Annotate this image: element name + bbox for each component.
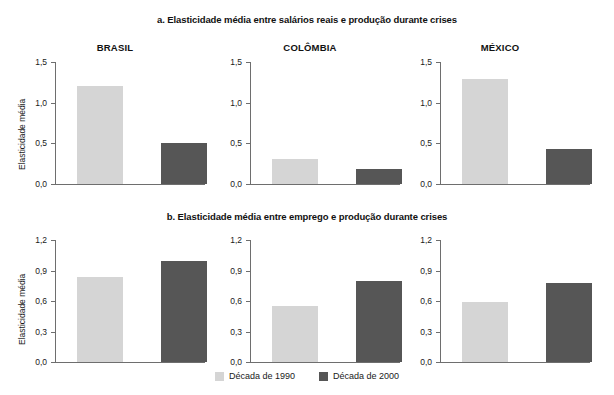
y-axis-line xyxy=(440,62,441,184)
panel-title-brasil: BRASIL xyxy=(35,42,195,53)
bar-decada1990 xyxy=(77,86,123,184)
y-axis-tick xyxy=(51,62,55,63)
y-axis-tick-label: 1,0 xyxy=(420,98,432,108)
x-axis-line xyxy=(440,362,590,363)
y-axis-tick-label: 0,0 xyxy=(420,179,432,189)
y-axis-tick-label: 0,9 xyxy=(420,266,432,276)
y-axis-tick-label: 0,0 xyxy=(35,179,47,189)
y-axis-tick-label: 0,5 xyxy=(230,138,242,148)
y-axis-tick xyxy=(436,143,440,144)
y-axis-line xyxy=(440,240,441,362)
y-axis-tick xyxy=(246,240,250,241)
y-axis-tick-label: 0,0 xyxy=(35,357,47,367)
y-axis-tick xyxy=(51,301,55,302)
y-axis-tick-label: 1,5 xyxy=(420,57,432,67)
y-axis-tick-label: 1,5 xyxy=(35,57,47,67)
legend-label-decada2000: Década de 2000 xyxy=(333,371,399,381)
chart-panel-a-brasil: 0,00,51,01,5 xyxy=(55,62,205,184)
y-axis-tick xyxy=(436,301,440,302)
x-axis-line xyxy=(250,362,400,363)
y-axis-tick xyxy=(436,240,440,241)
y-axis-tick-label: 1,2 xyxy=(230,235,242,245)
y-axis-tick-label: 1,0 xyxy=(230,98,242,108)
y-axis-tick-label: 0,0 xyxy=(230,357,242,367)
bar-decada2000 xyxy=(546,283,592,362)
panel-title-mexico: MÉXICO xyxy=(420,42,580,53)
chart-panel-b-colombia: 0,00,30,60,91,2 xyxy=(250,240,400,362)
y-axis-tick xyxy=(51,143,55,144)
y-axis-tick-label: 1,5 xyxy=(230,57,242,67)
y-axis-tick-label: 0,9 xyxy=(35,266,47,276)
chart-panel-a-mexico: 0,00,51,01,5 xyxy=(440,62,590,184)
y-axis-label-b: Elasticidade média xyxy=(17,274,27,345)
y-axis-tick xyxy=(246,362,250,363)
y-axis-line xyxy=(250,62,251,184)
y-axis-tick xyxy=(246,332,250,333)
x-axis-line xyxy=(250,184,400,185)
y-axis-tick xyxy=(51,240,55,241)
y-axis-tick xyxy=(246,271,250,272)
legend-swatch-icon-decada1990 xyxy=(215,372,224,381)
y-axis-tick-label: 1,2 xyxy=(35,235,47,245)
bar-decada1990 xyxy=(462,302,508,362)
bar-decada2000 xyxy=(356,281,402,362)
y-axis-tick-label: 0,3 xyxy=(420,327,432,337)
section-title-a: a. Elasticidade média entre salários rea… xyxy=(0,14,614,25)
chart-panel-a-colombia: 0,00,51,01,5 xyxy=(250,62,400,184)
y-axis-line xyxy=(55,62,56,184)
y-axis-tick-label: 0,3 xyxy=(35,327,47,337)
y-axis-tick xyxy=(51,362,55,363)
legend: Década de 1990 Década de 2000 xyxy=(0,371,614,381)
x-axis-line xyxy=(440,184,590,185)
y-axis-tick-label: 0,6 xyxy=(35,296,47,306)
y-axis-tick-label: 0,3 xyxy=(230,327,242,337)
y-axis-tick xyxy=(436,62,440,63)
y-axis-tick xyxy=(51,332,55,333)
bar-decada2000 xyxy=(161,261,207,362)
y-axis-tick xyxy=(436,103,440,104)
bar-decada1990 xyxy=(272,159,318,184)
y-axis-tick xyxy=(436,332,440,333)
y-axis-tick-label: 1,0 xyxy=(35,98,47,108)
y-axis-tick xyxy=(51,184,55,185)
legend-swatch-icon-decada2000 xyxy=(319,372,328,381)
y-axis-tick xyxy=(51,103,55,104)
y-axis-label-a: Elasticidade média xyxy=(17,99,27,170)
y-axis-tick xyxy=(246,62,250,63)
y-axis-line xyxy=(250,240,251,362)
y-axis-tick xyxy=(51,271,55,272)
y-axis-tick-label: 0,6 xyxy=(230,296,242,306)
y-axis-tick xyxy=(246,301,250,302)
bar-decada2000 xyxy=(356,169,402,184)
bar-decada1990 xyxy=(272,306,318,362)
y-axis-tick xyxy=(436,271,440,272)
bar-decada1990 xyxy=(77,277,123,362)
bar-decada2000 xyxy=(546,149,592,184)
y-axis-tick xyxy=(436,362,440,363)
section-title-b: b. Elasticidade média entre emprego e pr… xyxy=(0,211,614,222)
y-axis-tick-label: 0,6 xyxy=(420,296,432,306)
y-axis-tick-label: 0,9 xyxy=(230,266,242,276)
panel-title-colombia: COLÔMBIA xyxy=(230,42,390,53)
figure-root: a. Elasticidade média entre salários rea… xyxy=(0,0,614,395)
y-axis-tick-label: 0,5 xyxy=(35,138,47,148)
y-axis-tick xyxy=(246,103,250,104)
y-axis-tick-label: 1,2 xyxy=(420,235,432,245)
x-axis-line xyxy=(55,184,205,185)
y-axis-tick xyxy=(246,143,250,144)
y-axis-tick-label: 0,5 xyxy=(420,138,432,148)
bar-decada2000 xyxy=(161,143,207,184)
y-axis-tick xyxy=(436,184,440,185)
y-axis-tick xyxy=(246,184,250,185)
x-axis-line xyxy=(55,362,205,363)
y-axis-line xyxy=(55,240,56,362)
chart-panel-b-mexico: 0,00,30,60,91,2 xyxy=(440,240,590,362)
bar-decada1990 xyxy=(462,79,508,184)
y-axis-tick-label: 0,0 xyxy=(420,357,432,367)
legend-label-decada1990: Década de 1990 xyxy=(229,371,295,381)
legend-item-decada2000: Década de 2000 xyxy=(319,371,399,381)
y-axis-tick-label: 0,0 xyxy=(230,179,242,189)
legend-item-decada1990: Década de 1990 xyxy=(215,371,295,381)
chart-panel-b-brasil: 0,00,30,60,91,2 xyxy=(55,240,205,362)
